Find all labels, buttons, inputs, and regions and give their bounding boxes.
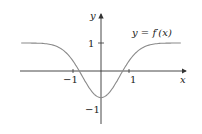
x-tick-label-neg1: −1 (63, 74, 78, 85)
y-tick-label-1: 1 (88, 38, 94, 49)
y-axis-label: y (89, 10, 96, 21)
y-tick-label-neg1: −1 (85, 104, 100, 115)
x-tick-label-1: 1 (130, 74, 136, 85)
curve-annotation: y = f′(x) (131, 27, 172, 38)
chart: y x 1 −1 −1 1 y = f′(x) (0, 0, 202, 134)
x-axis-label: x (180, 74, 186, 85)
